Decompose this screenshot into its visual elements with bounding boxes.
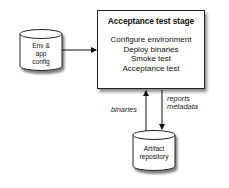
env-config-label: Env & app config [20,42,62,66]
artifact-repository-label-line: Artifact [133,145,175,153]
env-config-label-line: config [20,58,62,66]
metadata-label: metadata [167,103,198,111]
artifact-repository-label-line: repository [133,153,175,161]
stage-steps: Configure environment Deploy binaries Sm… [98,35,204,73]
env-config-label-line: app [20,50,62,58]
env-config-label-line: Env & [20,42,62,50]
stage-title: Acceptance test stage [98,16,204,26]
stage-step: Configure environment [98,35,204,45]
stage-step: Deploy binaries [98,45,204,55]
reports-metadata-edge-label: reports metadata [167,95,198,112]
stage-step: Acceptance test [98,64,204,74]
acceptance-test-stage-box: Acceptance test stage Configure environm… [97,10,205,89]
binaries-edge-label: binaries [111,106,137,114]
stage-step: Smoke test [98,54,204,64]
artifact-repository-label: Artifact repository [133,145,175,161]
